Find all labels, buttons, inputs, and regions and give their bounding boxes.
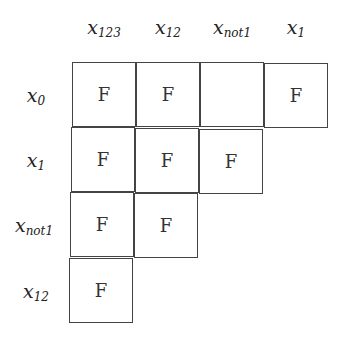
- cell-x0-x1: F: [264, 63, 328, 128]
- column-header-x123: x123: [72, 18, 136, 39]
- cell-x0-xnot1: [200, 62, 264, 127]
- cell-x12-x123: F: [69, 258, 133, 323]
- cell-x0-x12: F: [136, 62, 200, 127]
- cell-x1-xnot1: F: [199, 129, 263, 194]
- row-header-xnot1: xnot1: [2, 216, 66, 237]
- column-header-x1: x1: [264, 18, 328, 39]
- row-header-x0: x0: [4, 86, 68, 107]
- column-header-x12: x12: [136, 18, 200, 39]
- cell-x1-x123: F: [71, 127, 135, 192]
- cell-xnot1-x12: F: [134, 193, 198, 258]
- cell-x0-x123: F: [72, 62, 136, 127]
- cell-x1-x12: F: [135, 128, 199, 193]
- column-header-xnot1: xnot1: [200, 18, 264, 39]
- cell-xnot1-x123: F: [70, 192, 134, 257]
- row-header-x1: x1: [4, 151, 68, 172]
- row-header-x12: x12: [4, 282, 68, 303]
